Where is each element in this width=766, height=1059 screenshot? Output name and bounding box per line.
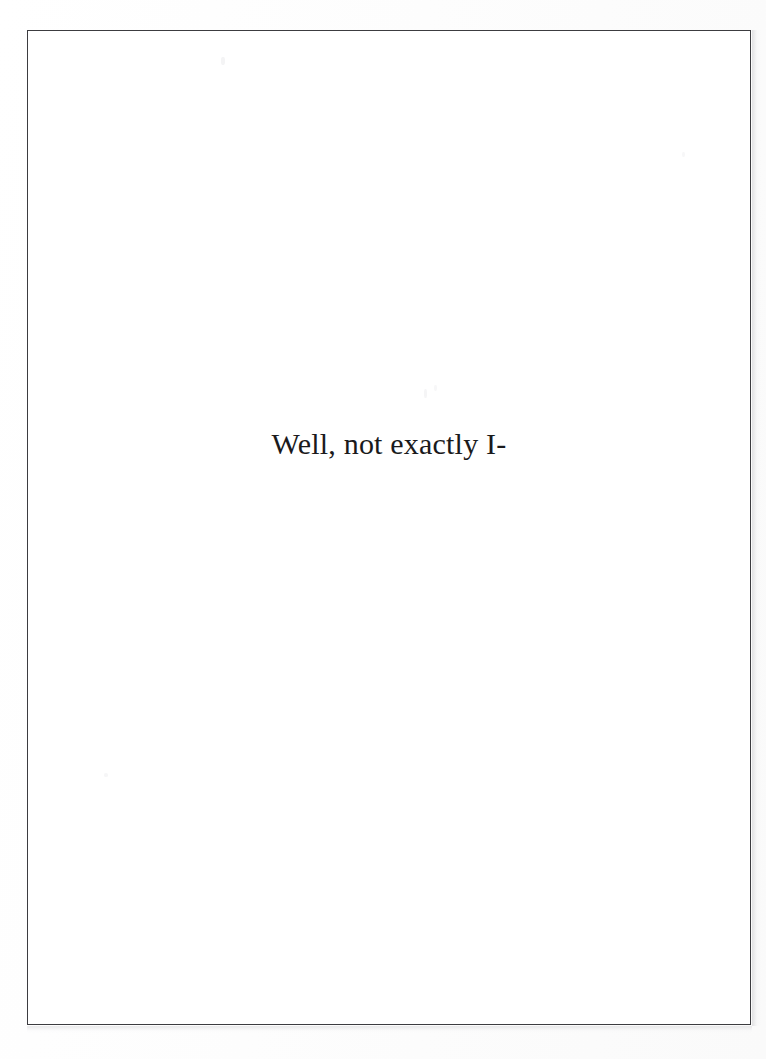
- scan-artifact-speck: [682, 152, 685, 157]
- scan-artifact-speck: [221, 57, 225, 65]
- page-content-area: Well, not exactly I-: [28, 31, 750, 1024]
- page-border-frame: Well, not exactly I-: [27, 30, 751, 1025]
- body-text-line: Well, not exactly I-: [28, 427, 750, 461]
- page-edge-shadow-right: [752, 30, 761, 1026]
- scan-artifact-speck: [104, 773, 108, 777]
- scan-artifact-speck: [424, 389, 427, 398]
- scan-artifact-speck: [434, 385, 437, 391]
- page-edge-shadow-bottom: [27, 1026, 752, 1034]
- scanned-page-sheet: Well, not exactly I-: [0, 0, 766, 1059]
